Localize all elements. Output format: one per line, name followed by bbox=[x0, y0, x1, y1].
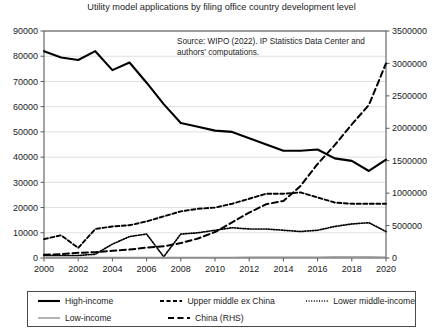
series-line-high-income bbox=[44, 51, 386, 171]
x-axis-tick-label: 2004 bbox=[102, 264, 122, 274]
legend-swatch-upper-middle bbox=[160, 296, 182, 306]
source-note: authors' computations. bbox=[177, 48, 259, 57]
y-axis-right-tick-label: 2000000 bbox=[392, 123, 427, 133]
y-axis-left-tick-label: 20000 bbox=[13, 203, 38, 213]
legend-item-low-income: Low-income bbox=[28, 313, 158, 323]
legend-row-1: High-income Upper middle ex China Lower … bbox=[28, 292, 415, 309]
y-axis-right-tick-label: 3000000 bbox=[392, 59, 427, 69]
x-axis-tick-label: 2012 bbox=[239, 264, 259, 274]
legend-item-china: China (RHS) bbox=[158, 313, 313, 323]
y-axis-left-tick-label: 10000 bbox=[13, 228, 38, 238]
y-axis-right-tick-label: 500000 bbox=[392, 221, 422, 231]
x-axis-tick-label: 2014 bbox=[273, 264, 293, 274]
series-line-low-income bbox=[44, 257, 386, 258]
legend-swatch-china bbox=[168, 313, 190, 323]
y-axis-right-tick-label: 0 bbox=[392, 253, 397, 263]
legend-label-low-income: Low-income bbox=[65, 313, 111, 323]
x-axis-tick-label: 2006 bbox=[137, 264, 157, 274]
y-axis-right-tick-label: 2500000 bbox=[392, 91, 427, 101]
x-axis-tick-label: 2000 bbox=[34, 264, 54, 274]
legend-item-upper-middle: Upper middle ex China bbox=[150, 296, 296, 306]
x-axis-tick-label: 2008 bbox=[171, 264, 191, 274]
legend-swatch-high-income bbox=[38, 296, 60, 306]
y-axis-right-tick-label: 3500000 bbox=[392, 26, 427, 36]
y-axis-left-tick-label: 30000 bbox=[13, 178, 38, 188]
source-note: Source: WIPO (2022). IP Statistics Data … bbox=[177, 37, 365, 46]
series-line-upper-middle-ex-china bbox=[44, 192, 386, 247]
legend-label-high-income: High-income bbox=[65, 296, 113, 306]
legend-label-china: China (RHS) bbox=[195, 313, 244, 323]
y-axis-left-tick-label: 40000 bbox=[13, 152, 38, 162]
legend-row-2: Low-income China (RHS) bbox=[28, 309, 415, 326]
legend-item-lower-middle: Lower middle-income bbox=[296, 296, 415, 306]
chart-legend: High-income Upper middle ex China Lower … bbox=[27, 291, 416, 327]
page-title: Utility model applications by filing off… bbox=[0, 1, 443, 14]
legend-swatch-low-income bbox=[38, 313, 60, 323]
line-chart-plot: Source: WIPO (2022). IP Statistics Data … bbox=[0, 0, 443, 290]
legend-label-lower-middle: Lower middle-income bbox=[333, 296, 415, 306]
x-axis-tick-label: 2016 bbox=[308, 264, 328, 274]
chart-container: Utility model applications by filing off… bbox=[0, 0, 443, 335]
x-axis-tick-label: 2002 bbox=[68, 264, 88, 274]
y-axis-right-tick-label: 1000000 bbox=[392, 188, 427, 198]
y-axis-left-tick-label: 90000 bbox=[13, 26, 38, 36]
legend-item-high-income: High-income bbox=[28, 296, 150, 306]
y-axis-left-tick-label: 60000 bbox=[13, 102, 38, 112]
legend-swatch-lower-middle bbox=[306, 296, 328, 306]
y-axis-left-tick-label: 70000 bbox=[13, 77, 38, 87]
x-axis-tick-label: 2018 bbox=[342, 264, 362, 274]
y-axis-left-tick-label: 0 bbox=[33, 253, 38, 263]
legend-label-upper-middle: Upper middle ex China bbox=[187, 296, 274, 306]
y-axis-left-tick-label: 80000 bbox=[13, 51, 38, 61]
x-axis-tick-label: 2020 bbox=[376, 264, 396, 274]
y-axis-left-tick-label: 50000 bbox=[13, 127, 38, 137]
x-axis-tick-label: 2010 bbox=[205, 264, 225, 274]
y-axis-right-tick-label: 1500000 bbox=[392, 156, 427, 166]
